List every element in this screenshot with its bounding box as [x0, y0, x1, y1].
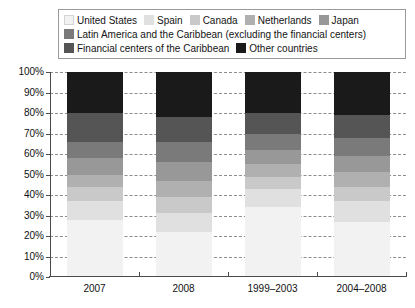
legend-swatch-icon [64, 15, 74, 25]
x-axis-tick [406, 272, 407, 277]
bar-segment [156, 162, 212, 180]
bar-segment [245, 207, 301, 277]
legend-label: Financial centers of the Caribbean [77, 43, 229, 54]
legend-entry: Financial centers of the Caribbean [64, 43, 229, 54]
legend-entry: Netherlands [245, 15, 312, 26]
bar-segment [156, 117, 212, 142]
y-axis-line [50, 72, 51, 277]
y-axis-tick-label: 30% [24, 211, 44, 221]
bar-segment [156, 142, 212, 163]
bar-segment [67, 72, 123, 113]
legend-swatch-icon [236, 43, 246, 53]
legend-entry: Other countries [236, 43, 317, 54]
y-axis-tick [46, 195, 50, 196]
chart-legend: United StatesSpainCanadaNetherlandsJapan… [58, 9, 406, 59]
legend-entry: United States [64, 15, 137, 26]
y-axis-tick [46, 113, 50, 114]
bar-segment [334, 172, 390, 186]
legend-label: Latin America and the Caribbean (excludi… [77, 29, 366, 40]
legend-label: United States [77, 15, 137, 26]
bar-segment [334, 72, 390, 115]
bar-segment [67, 158, 123, 174]
bar-segment [334, 187, 390, 201]
bar-segment [334, 201, 390, 222]
bar-segment [156, 72, 212, 117]
legend-label: Japan [332, 15, 359, 26]
legend-entry: Spain [144, 15, 183, 26]
legend-entry: Latin America and the Caribbean (excludi… [64, 29, 366, 40]
x-axis-tick [317, 272, 318, 277]
y-axis-tick-label: 60% [24, 149, 44, 159]
bar-segment [245, 177, 301, 189]
bar-segment [67, 175, 123, 187]
bar-segment [67, 113, 123, 142]
legend-entry: Canada [190, 15, 238, 26]
y-axis-tick [46, 257, 50, 258]
bar-segment [245, 72, 301, 113]
y-axis-tick [46, 236, 50, 237]
y-axis-tick [46, 277, 50, 278]
legend-row-3: Financial centers of the CaribbeanOther … [64, 41, 400, 55]
y-axis-tick-label: 20% [24, 231, 44, 241]
legend-swatch-icon [64, 43, 74, 53]
y-axis-tick [46, 175, 50, 176]
x-axis-tick [139, 272, 140, 277]
y-axis-tick-label: 40% [24, 190, 44, 200]
legend-swatch-icon [319, 15, 329, 25]
plot-area: 0%10%20%30%40%50%60%70%80%90%100% 200720… [50, 72, 406, 277]
y-axis-tick-label: 0% [30, 272, 44, 282]
x-axis-tick [228, 272, 229, 277]
legend-swatch-icon [64, 29, 74, 39]
bar-segment [334, 138, 390, 156]
bar-segment [156, 197, 212, 213]
x-axis-tick-label: 2007 [83, 284, 105, 294]
bar-segment [67, 201, 123, 219]
bar-segment [156, 232, 212, 277]
legend-label: Netherlands [258, 15, 312, 26]
y-axis-tick [46, 93, 50, 94]
y-axis-tick [46, 72, 50, 73]
bar-segment [156, 181, 212, 197]
bar-segment [245, 189, 301, 207]
bar-segment [67, 187, 123, 201]
legend-label: Other countries [249, 43, 317, 54]
y-axis-tick-label: 10% [24, 252, 44, 262]
bar-stack [334, 72, 390, 277]
legend-row-1: United StatesSpainCanadaNetherlandsJapan [64, 13, 400, 27]
x-axis-tick-label: 1999–2003 [247, 284, 297, 294]
bar-segment [156, 213, 212, 231]
legend-row-2: Latin America and the Caribbean (excludi… [64, 27, 400, 41]
y-axis-tick-label: 90% [24, 88, 44, 98]
bar-segment [67, 142, 123, 158]
bar-segment [245, 150, 301, 164]
bar-segment [67, 220, 123, 277]
bar-segment [334, 222, 390, 277]
y-axis-tick [46, 134, 50, 135]
bar-segment [245, 134, 301, 150]
y-axis-tick [46, 216, 50, 217]
x-axis-tick-label: 2004–2008 [336, 284, 386, 294]
bar-segment [334, 156, 390, 172]
legend-entry: Japan [319, 15, 359, 26]
bar-stack [245, 72, 301, 277]
y-axis-tick [46, 154, 50, 155]
legend-label: Spain [157, 15, 183, 26]
legend-swatch-icon [245, 15, 255, 25]
bar-segment [245, 113, 301, 134]
stacked-bar-chart: United StatesSpainCanadaNetherlandsJapan… [0, 0, 415, 308]
y-axis-tick-label: 50% [24, 170, 44, 180]
y-axis-tick-label: 70% [24, 129, 44, 139]
legend-swatch-icon [190, 15, 200, 25]
legend-label: Canada [203, 15, 238, 26]
y-axis-tick-label: 80% [24, 108, 44, 118]
bar-stack [156, 72, 212, 277]
bar-segment [245, 164, 301, 176]
y-axis-tick-label: 100% [18, 67, 44, 77]
bar-stack [67, 72, 123, 277]
x-axis-tick-label: 2008 [172, 284, 194, 294]
legend-swatch-icon [144, 15, 154, 25]
bar-segment [334, 115, 390, 138]
